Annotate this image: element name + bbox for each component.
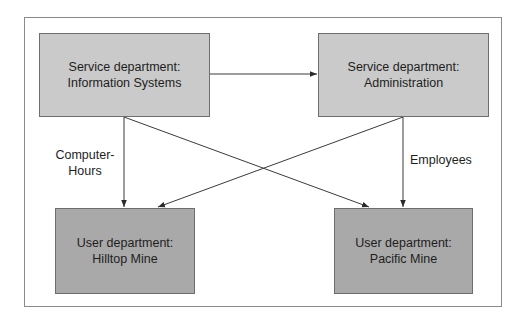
label-line2: Hours <box>52 163 118 179</box>
node-line2: Administration <box>364 75 443 91</box>
label-computer-hours: Computer- Hours <box>52 147 118 179</box>
node-line1: User department: <box>77 235 174 251</box>
edge-is-to-pacific <box>124 117 369 207</box>
label-employees: Employees <box>410 152 480 168</box>
node-pacific-mine: User department: Pacific Mine <box>334 208 473 294</box>
node-line1: Service department: <box>348 59 460 75</box>
node-information-systems: Service department: Information Systems <box>39 33 210 117</box>
node-line1: User department: <box>355 235 452 251</box>
node-administration: Service department: Administration <box>318 33 489 117</box>
node-line1: Service department: <box>69 59 181 75</box>
node-hilltop-mine: User department: Hilltop Mine <box>55 208 195 294</box>
node-line2: Information Systems <box>68 75 182 91</box>
node-line2: Pacific Mine <box>370 251 437 267</box>
node-line2: Hilltop Mine <box>92 251 157 267</box>
edge-admin-to-hilltop <box>158 117 403 207</box>
label-line1: Computer- <box>52 147 118 163</box>
label-employees-text: Employees <box>410 153 472 167</box>
